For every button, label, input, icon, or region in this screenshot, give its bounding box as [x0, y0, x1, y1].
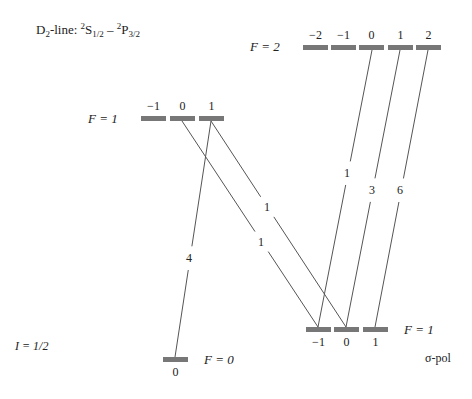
m-label: 0 — [344, 335, 350, 349]
transition-line — [175, 270, 188, 357]
transition-line — [375, 202, 399, 327]
m-label: −2 — [309, 28, 322, 42]
upper-F2-label: F = 2 — [249, 39, 280, 54]
level-bar-lower_F1-m0 — [306, 327, 331, 332]
transition-strength-label: 1 — [264, 200, 270, 214]
m-label: 0 — [180, 99, 186, 113]
upper-F1-label: F = 1 — [87, 111, 118, 126]
polarization-label: σ-pol — [425, 351, 451, 365]
m-label: 0 — [369, 28, 375, 42]
transition-line — [403, 50, 428, 178]
nuclear-spin-label: I = 1/2 — [14, 339, 48, 353]
m-label: 1 — [209, 99, 215, 113]
transition-strength-label: 6 — [397, 183, 403, 197]
level-bar-upper_F2-m1 — [331, 45, 356, 50]
transition-lines: 411136 — [175, 50, 428, 357]
level-bar-upper_F2-m2 — [359, 45, 384, 50]
level-bar-lower_F0-m0 — [163, 357, 188, 362]
diagram-title: D2-line: 2S1/2 – 2P3/2 — [36, 21, 140, 39]
hyperfine-diagram: D2-line: 2S1/2 – 2P3/2 F = 2 F = 1 F = 1… — [0, 0, 472, 399]
transition-strength-label: 4 — [186, 251, 192, 265]
level-bar-lower_F1-m1 — [334, 327, 359, 332]
transition-line — [346, 202, 370, 327]
lower-F1-label: F = 1 — [403, 322, 434, 337]
level-bar-upper_F1-m1 — [170, 116, 195, 121]
transition-strength-label: 1 — [258, 235, 264, 249]
transition-strength-label: 1 — [344, 166, 350, 180]
m-label: −1 — [312, 335, 325, 349]
m-label: −1 — [147, 99, 160, 113]
level-bar-upper_F1-m0 — [141, 116, 166, 121]
transition-line — [350, 50, 372, 161]
level-bar-upper_F1-m2 — [199, 116, 224, 121]
transition-line — [211, 121, 261, 197]
m-label: 1 — [373, 335, 379, 349]
level-bar-upper_F2-m0 — [303, 45, 328, 50]
energy-levels: −2−1012−101−1010 — [141, 28, 441, 379]
level-bar-upper_F2-m3 — [388, 45, 413, 50]
transition-strength-label: 3 — [369, 183, 375, 197]
m-label: −1 — [337, 28, 350, 42]
m-label: 2 — [426, 28, 432, 42]
transition-line — [274, 217, 346, 327]
transition-line — [182, 121, 255, 232]
level-bar-upper_F2-m4 — [416, 45, 441, 50]
transition-line — [375, 50, 400, 178]
level-bar-lower_F1-m2 — [363, 327, 388, 332]
lower-F0-label: F = 0 — [203, 352, 234, 367]
m-label: 0 — [173, 365, 179, 379]
transition-line — [268, 252, 318, 327]
m-label: 1 — [398, 28, 404, 42]
